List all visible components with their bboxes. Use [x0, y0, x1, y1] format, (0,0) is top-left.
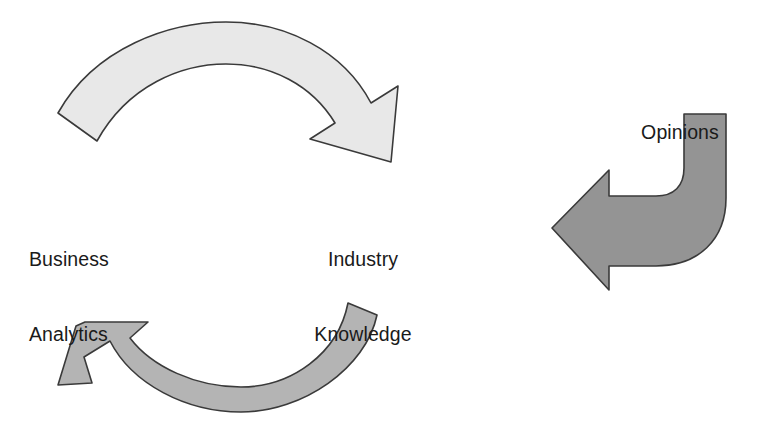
label-business-analytics-line1: Business	[29, 247, 109, 272]
label-opinions: Opinions	[600, 70, 760, 195]
diagram-canvas: Business Analytics Industry Knowledge Op…	[0, 0, 768, 444]
label-business-analytics-line2: Analytics	[29, 322, 109, 347]
label-industry-knowledge-line2: Knowledge	[268, 322, 458, 347]
label-industry-knowledge-line1: Industry	[268, 247, 458, 272]
label-industry-knowledge: Industry Knowledge	[268, 197, 458, 397]
top-arc-arrow	[58, 22, 398, 162]
label-opinions-line1: Opinions	[600, 120, 760, 145]
top-arc-arrow-shape	[58, 22, 398, 162]
label-business-analytics: Business Analytics	[29, 197, 109, 397]
